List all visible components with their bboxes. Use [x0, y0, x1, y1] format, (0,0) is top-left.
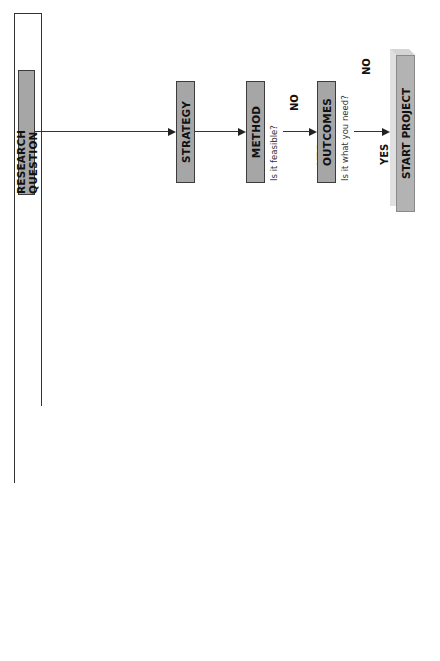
- diagram-overlay: [0, 0, 440, 661]
